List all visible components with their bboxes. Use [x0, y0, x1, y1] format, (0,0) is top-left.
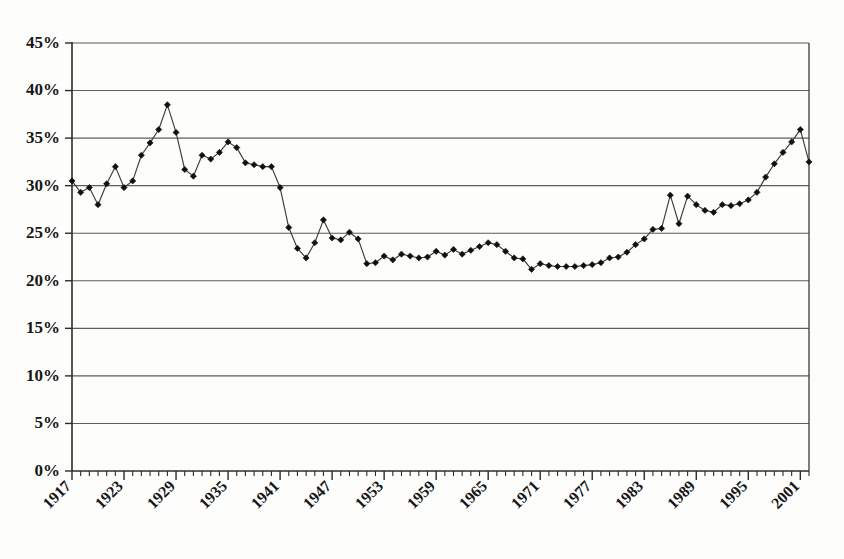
data-point-marker — [598, 260, 604, 266]
data-point-marker — [112, 164, 118, 170]
data-point-marker — [459, 251, 465, 257]
y-tick-label: 5% — [35, 413, 61, 432]
y-axis: 0%5%10%15%20%25%30%35%40%45% — [26, 33, 72, 480]
data-point-marker — [554, 263, 560, 269]
data-point-marker — [199, 152, 205, 158]
data-point-marker — [268, 164, 274, 170]
x-tick-label: 1929 — [144, 477, 179, 512]
line-chart: 0%5%10%15%20%25%30%35%40%45%191719231929… — [0, 0, 844, 559]
data-point-marker — [329, 235, 335, 241]
data-point-marker — [416, 255, 422, 261]
data-point-marker — [398, 251, 404, 257]
data-point-marker — [433, 248, 439, 254]
data-point-marker — [173, 129, 179, 135]
data-point-marker — [702, 207, 708, 213]
data-point-marker — [95, 202, 101, 208]
data-point-marker — [156, 126, 162, 132]
x-tick-label: 1917 — [39, 477, 74, 512]
x-tick-label: 1953 — [352, 477, 387, 512]
data-point-marker — [320, 217, 326, 223]
data-point-marker — [442, 252, 448, 258]
x-tick-label: 1935 — [196, 477, 231, 512]
y-tick-label: 10% — [26, 366, 60, 385]
y-tick-label: 40% — [26, 80, 60, 99]
x-tick-label: 1941 — [248, 477, 283, 512]
data-point-marker — [546, 262, 552, 268]
data-point-marker — [424, 254, 430, 260]
x-tick-label: 1983 — [612, 477, 647, 512]
data-point-marker — [286, 224, 292, 230]
data-point-marker — [580, 262, 586, 268]
data-point-marker — [537, 261, 543, 267]
data-point-marker — [164, 102, 170, 108]
data-point-marker — [251, 162, 257, 168]
x-tick-label: 1947 — [300, 477, 335, 512]
chart-figure: 0%5%10%15%20%25%30%35%40%45%191719231929… — [0, 0, 844, 559]
x-axis: 1917192319291935194119471953195919651971… — [39, 471, 809, 512]
x-tick-label: 1977 — [560, 477, 595, 512]
data-point-marker — [728, 203, 734, 209]
data-point-marker — [606, 255, 612, 261]
y-tick-label: 0% — [35, 461, 61, 480]
data-point-marker — [615, 254, 621, 260]
data-point-marker — [234, 145, 240, 151]
data-point-marker — [312, 240, 318, 246]
x-tick-label: 1989 — [664, 477, 699, 512]
y-tick-label: 20% — [26, 271, 60, 290]
y-tick-label: 45% — [26, 33, 60, 52]
y-tick-label: 35% — [26, 128, 60, 147]
data-point-marker — [407, 253, 413, 259]
data-point-marker — [468, 247, 474, 253]
x-tick-label: 1923 — [91, 477, 126, 512]
gridlines — [72, 43, 809, 423]
data-point-marker — [390, 257, 396, 263]
data-point-marker — [476, 243, 482, 249]
x-tick-label: 2001 — [768, 477, 803, 512]
data-point-marker — [572, 263, 578, 269]
data-point-marker — [659, 225, 665, 231]
x-tick-label: 1971 — [508, 477, 543, 512]
y-tick-label: 30% — [26, 176, 60, 195]
x-tick-label: 1965 — [456, 477, 491, 512]
data-point-marker — [450, 246, 456, 252]
data-point-marker — [737, 201, 743, 207]
data-point-marker — [364, 261, 370, 267]
data-point-marker — [260, 164, 266, 170]
data-point-marker — [763, 174, 769, 180]
data-point-marker — [242, 160, 248, 166]
x-tick-label: 1959 — [404, 477, 439, 512]
series-0 — [69, 102, 812, 273]
data-point-marker — [806, 159, 812, 165]
data-point-marker — [589, 262, 595, 268]
series-line — [72, 105, 809, 270]
data-point-marker — [563, 263, 569, 269]
data-point-marker — [667, 192, 673, 198]
data-point-marker — [676, 221, 682, 227]
data-point-marker — [485, 240, 491, 246]
x-tick-label: 1995 — [716, 477, 751, 512]
y-tick-label: 25% — [26, 223, 60, 242]
y-tick-label: 15% — [26, 318, 60, 337]
